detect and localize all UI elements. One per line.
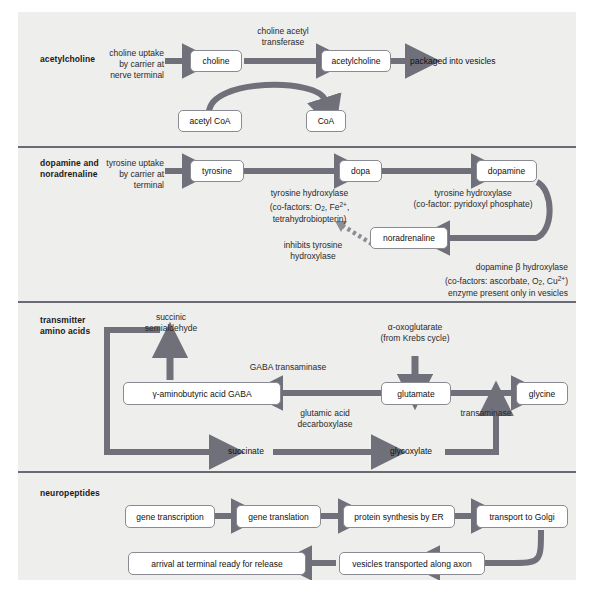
tyrosine-hydroxylase-note-2: tyrosine hydroxylase (co-factor: pyridox… [388,188,558,210]
inhibits-tyrosine-hydroxylase-note: inhibits tyrosine hydroxylase [263,240,363,262]
packaged-into-vesicles-label: packaged into vesicles [410,56,496,66]
choline-box[interactable]: choline [190,50,242,72]
gene-transcription-box[interactable]: gene transcription [125,505,215,528]
gaba-transaminase-note: GABA transaminase [223,362,353,373]
pathway-diagram: acetylcholine choline uptake by carrier … [18,12,576,580]
acetylcholine-box[interactable]: acetylcholine [321,50,391,72]
vesicles-transported-box[interactable]: vesicles transported along axon [339,552,485,575]
choline-uptake-note: choline uptake by carrier at nerve termi… [78,48,164,81]
arrival-at-terminal-box[interactable]: arrival at terminal ready for release [128,552,306,575]
dopamine-beta-hydroxylase-note: dopamine β hydroxylase (co-factors: asco… [386,262,568,299]
glycoxylate-label: glycoxylate [378,446,444,456]
section-divider-3 [18,471,576,473]
transport-to-golgi-box[interactable]: transport to Golgi [476,505,568,528]
choline-acetyl-transferase-note: choline acetyl transferase [223,26,343,48]
acetyl-coa-box[interactable]: acetyl CoA [178,110,242,132]
section-label-transmitter-amino-acids: transmitter amino acids [40,315,90,337]
succinate-label: succinate [218,446,274,456]
glycine-box[interactable]: glycine [516,382,568,405]
alpha-oxoglutarate-note: α-oxoglutarate (from Krebs cycle) [355,322,475,344]
section-label-neuropeptides: neuropeptides [40,488,100,499]
glutamate-box[interactable]: glutamate [381,382,451,405]
noradrenaline-box[interactable]: noradrenaline [370,227,448,249]
tyrosine-hydroxylase-cofactors-line: (co-factors: O2, Fe2+, [232,199,387,214]
protein-synthesis-box[interactable]: protein synthesis by ER [343,505,455,528]
succinic-semialdehyde-note: succinic semialdehyde [131,312,211,334]
dopa-box[interactable]: dopa [339,160,382,182]
gene-translation-box[interactable]: gene translation [236,505,321,528]
glutamic-acid-decarboxylase-note: glutamic acid decarboxylase [270,408,380,430]
tyrosine-uptake-note: tyrosine uptake by carrier at terminal [78,158,164,191]
section-divider-1 [18,146,576,148]
dopamine-box[interactable]: dopamine [476,160,537,182]
tyrosine-box[interactable]: tyrosine [190,160,244,182]
transaminase-note: transaminase [446,408,526,419]
dbh-cofactors-line: (co-factors: ascorbate, O2, Cu2+) [386,273,568,288]
tyrosine-hydroxylase-note-1: tyrosine hydroxylase (co-factors: O2, Fe… [232,188,387,225]
gaba-box[interactable]: γ-aminobutyric acid GABA [123,382,281,405]
section-divider-2 [18,301,576,303]
coa-box[interactable]: CoA [306,110,346,132]
